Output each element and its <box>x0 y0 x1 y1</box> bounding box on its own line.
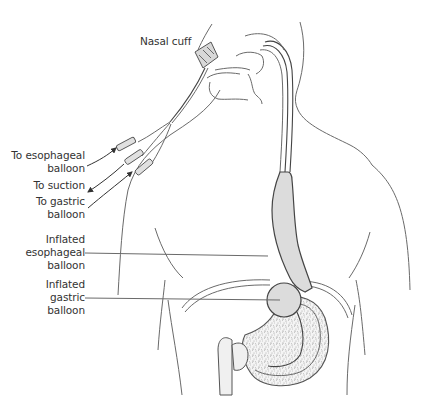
leader-esophageal <box>85 253 268 256</box>
duodenum <box>218 338 248 395</box>
esophageal-balloon <box>272 172 312 292</box>
nasal-cuff <box>195 42 218 68</box>
head-outline <box>198 22 372 165</box>
tube-upper <box>245 34 293 172</box>
label-to-gastric-balloon: To gastric balloon <box>36 195 85 221</box>
tube-connectors <box>116 137 154 176</box>
label-to-suction: To suction <box>34 179 85 192</box>
arrows <box>87 148 132 208</box>
leader-gastric <box>85 298 280 300</box>
label-to-esophageal-balloon: To esophageal balloon <box>11 149 85 175</box>
label-inflated-gastric-balloon: Inflated gastric balloon <box>46 278 85 317</box>
label-inflated-esophageal-balloon: Inflated esophageal balloon <box>25 233 85 272</box>
external-tubes <box>138 68 208 166</box>
label-nasal-cuff: Nasal cuff <box>140 35 191 48</box>
